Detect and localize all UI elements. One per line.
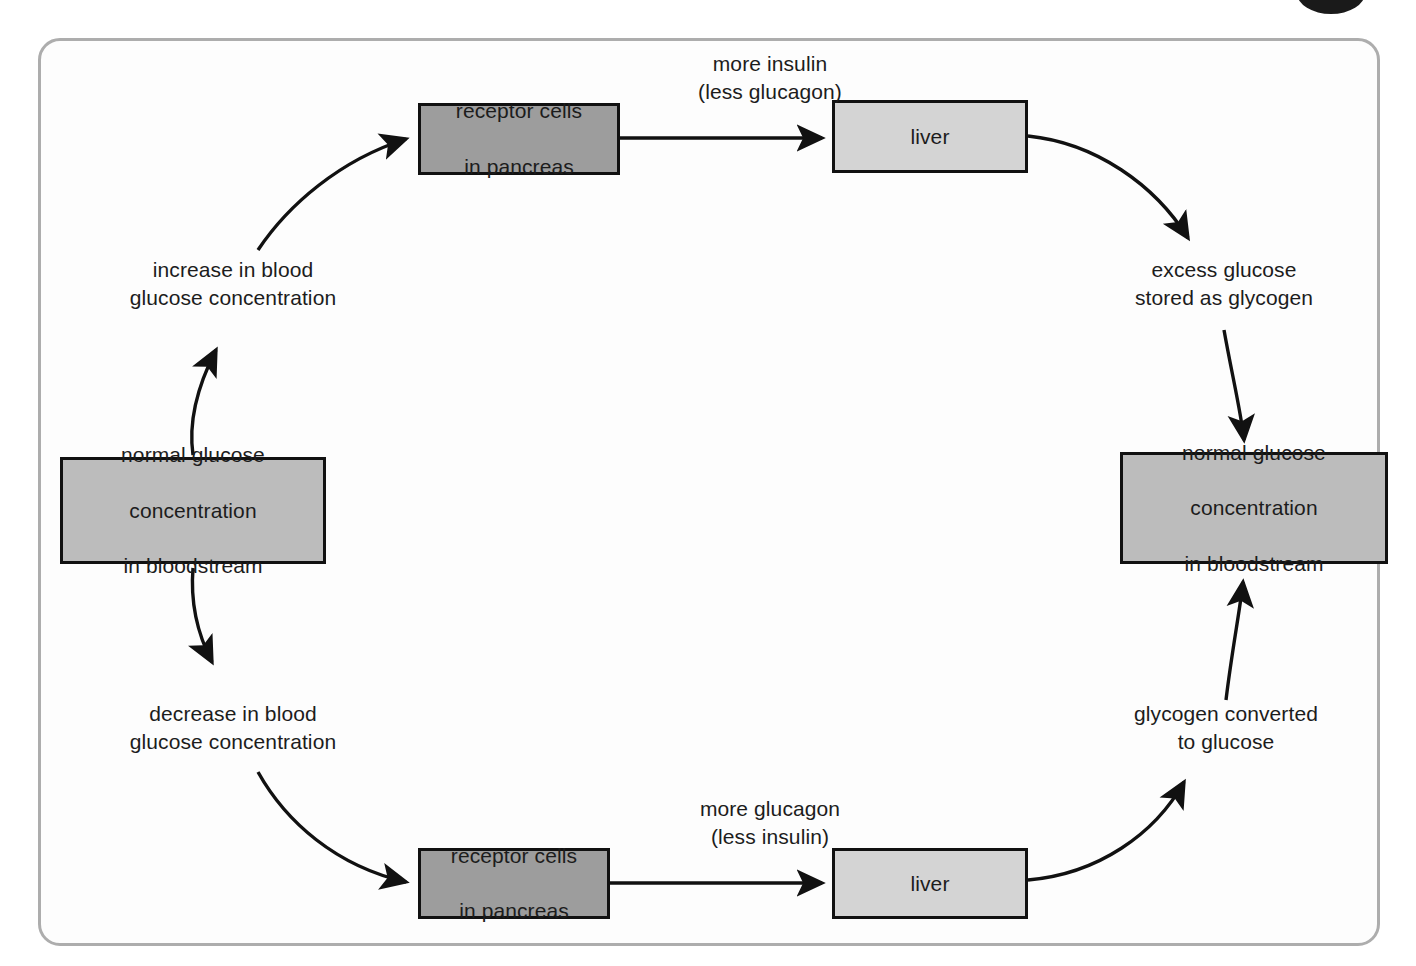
- node-label: liver: [904, 123, 955, 151]
- arrow-left-to-decrease: [192, 568, 212, 662]
- node-label: receptor cellsin pancreas: [444, 97, 594, 180]
- edge-label-increase-blood-glucose: increase in blood glucose concentration: [83, 256, 383, 312]
- edge-label-more-glucagon: more glucagon (less insulin): [655, 795, 885, 851]
- edge-label-excess-glucose: excess glucose stored as glycogen: [1074, 256, 1374, 312]
- edge-label-decrease-blood-glucose: decrease in blood glucose concentration: [83, 700, 383, 756]
- arrow-liver-bottom-to-glycogen: [1028, 782, 1184, 880]
- arrow-glycogen-to-normal-right: [1226, 582, 1243, 700]
- node-liver-bottom[interactable]: liver: [832, 848, 1028, 919]
- node-label: liver: [904, 870, 955, 898]
- arrow-left-to-increase: [192, 350, 216, 455]
- node-label: normal glucoseconcentrationin bloodstrea…: [109, 441, 277, 580]
- node-label: receptor cellsin pancreas: [439, 842, 589, 925]
- diagram-page: receptor cellsin pancreas liver normal g…: [0, 0, 1416, 966]
- edge-label-glycogen-converted: glycogen converted to glucose: [1076, 700, 1376, 756]
- arrow-liver-top-to-excess: [1028, 136, 1188, 238]
- node-liver-top[interactable]: liver: [832, 100, 1028, 173]
- node-normal-glucose-left[interactable]: normal glucoseconcentrationin bloodstrea…: [60, 457, 326, 564]
- node-receptor-cells-pancreas-top[interactable]: receptor cellsin pancreas: [418, 103, 620, 175]
- edge-label-more-insulin: more insulin (less glucagon): [660, 50, 880, 106]
- node-label: normal glucoseconcentrationin bloodstrea…: [1170, 439, 1338, 578]
- node-normal-glucose-right[interactable]: normal glucoseconcentrationin bloodstrea…: [1120, 452, 1388, 564]
- node-receptor-cells-pancreas-bottom[interactable]: receptor cellsin pancreas: [418, 848, 610, 919]
- arrow-decrease-to-pancreas-bottom: [258, 772, 406, 882]
- arrow-increase-to-pancreas-top: [258, 139, 406, 250]
- arrow-excess-to-normal-right: [1224, 330, 1244, 440]
